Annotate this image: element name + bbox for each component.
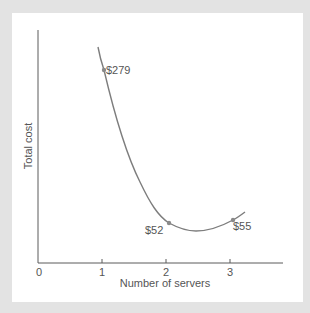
data-point-2-servers [167, 221, 171, 225]
y-axis-title: Total cost [22, 123, 34, 169]
total-cost-chart: 0 1 2 3 Number of servers Total cost $27… [0, 0, 310, 313]
x-tick-label-1: 1 [99, 266, 105, 278]
figure-background: 0 1 2 3 Number of servers Total cost $27… [0, 0, 310, 313]
x-tick-label-3: 3 [227, 266, 233, 278]
x-tick-label-0: 0 [36, 266, 42, 278]
annotation-52: $52 [145, 224, 163, 236]
x-axis-title: Number of servers [120, 277, 211, 289]
annotation-279: $279 [106, 64, 130, 76]
annotation-55: $55 [233, 220, 251, 232]
